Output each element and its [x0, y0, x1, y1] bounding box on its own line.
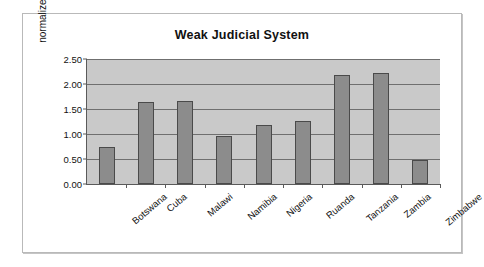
gridline	[87, 59, 440, 60]
y-tick-mark	[83, 184, 87, 185]
y-tick-mark	[83, 109, 87, 110]
x-tick-mark	[205, 184, 206, 188]
x-tick-mark	[362, 184, 363, 188]
x-tick-mark	[244, 184, 245, 188]
y-tick-label: 0.00	[48, 179, 82, 190]
y-tick-label: 1.50	[48, 104, 82, 115]
bar[interactable]	[216, 136, 232, 184]
x-axis-label: Nigeria	[284, 191, 314, 219]
x-tick-mark	[322, 184, 323, 188]
bar[interactable]	[373, 73, 389, 185]
x-axis-label: Zambia	[402, 191, 433, 220]
bar[interactable]	[412, 160, 428, 184]
x-axis-label: Zimbabwe	[444, 191, 484, 228]
y-tick-label: 2.50	[48, 54, 82, 65]
bar[interactable]	[177, 101, 193, 184]
plot-area: 0.000.501.001.502.002.50BotswanaCubaMala…	[86, 59, 440, 185]
y-tick-label: 2.00	[48, 79, 82, 90]
x-tick-mark	[440, 184, 441, 188]
x-tick-mark	[165, 184, 166, 188]
x-tick-mark	[283, 184, 284, 188]
bar[interactable]	[295, 121, 311, 185]
x-tick-mark	[401, 184, 402, 188]
x-axis-label: Namibia	[245, 191, 279, 222]
bar[interactable]	[334, 75, 350, 184]
y-tick-label: 0.50	[48, 154, 82, 165]
x-axis-label: Botswana	[129, 191, 168, 226]
y-tick-mark	[83, 134, 87, 135]
chart-title: Weak Judicial System	[23, 28, 461, 42]
bar[interactable]	[99, 147, 115, 185]
x-axis-label: Cuba	[164, 191, 188, 214]
bar[interactable]	[256, 125, 272, 184]
bar[interactable]	[138, 102, 154, 184]
y-tick-mark	[83, 84, 87, 85]
y-tick-mark	[83, 59, 87, 60]
y-tick-label: 1.00	[48, 129, 82, 140]
x-axis-label: Ruanda	[324, 191, 357, 221]
y-tick-mark	[83, 159, 87, 160]
x-axis-label: Tanzania	[364, 191, 400, 224]
x-axis-label: Malawi	[205, 191, 235, 218]
x-tick-mark	[126, 184, 127, 188]
chart-frame: Weak Judicial System normalized index 0.…	[22, 13, 462, 253]
